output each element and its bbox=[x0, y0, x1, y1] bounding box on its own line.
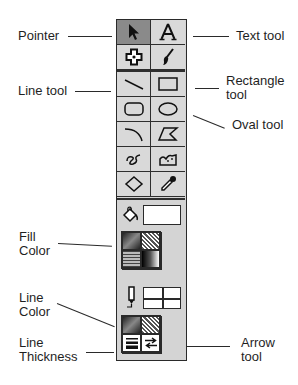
callout-line-color: Line Color bbox=[19, 291, 50, 319]
squiggle-icon bbox=[123, 151, 145, 167]
eyedropper-tool-button[interactable] bbox=[151, 172, 185, 197]
callout-oval-tool: Oval tool bbox=[232, 118, 283, 132]
hand-tool-button[interactable] bbox=[117, 45, 151, 70]
oval-tool-button[interactable] bbox=[151, 97, 185, 122]
fill-color-swatch[interactable] bbox=[143, 205, 181, 225]
callout-line-thickness: Line Thickness bbox=[19, 336, 78, 364]
arrow-style-button[interactable] bbox=[141, 334, 160, 352]
fill-color-panel bbox=[117, 200, 185, 282]
line-color-swatch[interactable] bbox=[143, 287, 181, 309]
rectangle-icon bbox=[157, 76, 179, 92]
rounded-rect-icon bbox=[123, 101, 145, 117]
line-gradient-cell[interactable] bbox=[122, 316, 141, 334]
diamond-tool-button[interactable] bbox=[117, 172, 151, 197]
fill-shade-cell[interactable] bbox=[141, 250, 160, 268]
freeform-icon bbox=[157, 151, 179, 167]
leader-text-tool bbox=[193, 36, 229, 37]
paint-bucket-icon[interactable] bbox=[121, 206, 139, 226]
text-tool-button[interactable] bbox=[151, 20, 185, 45]
leader-oval-tool bbox=[193, 115, 225, 129]
letter-a-icon bbox=[158, 23, 178, 41]
fill-gradient-cell[interactable] bbox=[122, 232, 141, 250]
brush-icon bbox=[161, 48, 175, 66]
freehand-tool-button[interactable] bbox=[117, 147, 151, 172]
oval-icon bbox=[157, 101, 179, 117]
callout-rectangle-tool: Rectangle tool bbox=[226, 74, 285, 102]
line-icon bbox=[123, 77, 145, 91]
callout-text-tool: Text tool bbox=[236, 29, 284, 43]
line-tool-button[interactable] bbox=[117, 72, 151, 97]
fill-texture-cell[interactable] bbox=[122, 250, 141, 268]
callout-pointer: Pointer bbox=[18, 29, 59, 43]
eyedropper-icon bbox=[159, 175, 177, 193]
leader-line-tool bbox=[75, 91, 111, 92]
callout-arrow-tool: Arrow tool bbox=[241, 336, 275, 364]
leader-line-color bbox=[57, 303, 115, 328]
paintbrush-tool-button[interactable] bbox=[151, 45, 185, 70]
line-thickness-icon bbox=[125, 337, 139, 349]
leader-rectangle-tool bbox=[195, 88, 219, 89]
diamond-icon bbox=[124, 175, 144, 193]
arc-icon bbox=[123, 126, 145, 142]
arrow-cursor-icon bbox=[126, 23, 142, 41]
drawing-toolbar bbox=[116, 19, 187, 361]
pointer-tool-button[interactable] bbox=[117, 20, 151, 45]
callout-line-tool: Line tool bbox=[18, 84, 67, 98]
fill-pattern-palette bbox=[121, 231, 161, 269]
arc-tool-button[interactable] bbox=[117, 122, 151, 147]
line-style-palette bbox=[121, 315, 161, 353]
fill-pattern-cell[interactable] bbox=[141, 232, 160, 250]
leader-fill-color bbox=[58, 243, 112, 247]
arrows-icon bbox=[144, 337, 158, 349]
leader-pointer bbox=[68, 36, 112, 37]
callout-fill-color: Fill Color bbox=[19, 230, 50, 258]
line-thickness-button[interactable] bbox=[122, 334, 141, 352]
polygon-icon bbox=[157, 126, 179, 142]
shape-tools bbox=[117, 72, 185, 197]
selection-tools bbox=[117, 20, 185, 70]
line-pattern-cell[interactable] bbox=[141, 316, 160, 334]
rounded-rectangle-tool-button[interactable] bbox=[117, 97, 151, 122]
polygon-tool-button[interactable] bbox=[151, 122, 185, 147]
hand-cross-icon bbox=[125, 48, 143, 66]
leader-line-thickness bbox=[86, 352, 114, 353]
line-color-panel bbox=[117, 282, 185, 360]
freeform-polygon-tool-button[interactable] bbox=[151, 147, 185, 172]
rectangle-tool-button[interactable] bbox=[151, 72, 185, 97]
pencil-icon[interactable] bbox=[126, 286, 138, 308]
